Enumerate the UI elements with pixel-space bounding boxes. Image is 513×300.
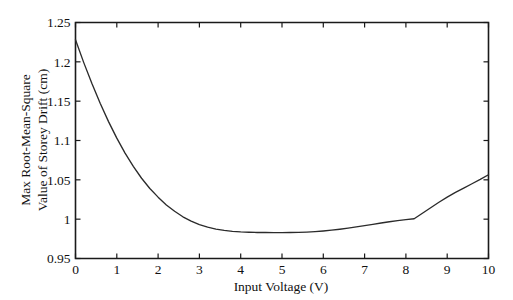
x-tick-label-2: 2 [155, 262, 162, 277]
x-tick-label-6: 6 [320, 262, 327, 277]
chart-figure-root: 012345678910 0.9511.051.11.151.21.25 Inp… [0, 0, 513, 300]
y-tick-label-4: 1.15 [47, 94, 71, 109]
x-tick-label-0: 0 [72, 262, 79, 277]
x-tick-label-10: 10 [482, 262, 496, 277]
x-axis-title: Input Voltage (V) [234, 279, 329, 294]
x-tick-label-5: 5 [279, 262, 286, 277]
y-tick-label-2: 1.05 [47, 173, 71, 188]
x-tick-label-3: 3 [196, 262, 203, 277]
x-tick-label-7: 7 [361, 262, 368, 277]
y-tick-label-1: 1 [64, 212, 71, 227]
x-tick-label-1: 1 [113, 262, 120, 277]
y-tick-label-6: 1.25 [47, 15, 71, 30]
y-axis-title-line1: Max Root-Mean-Square [18, 74, 33, 206]
plot-area-background [76, 23, 489, 259]
line-chart-svg: 012345678910 0.9511.051.11.151.21.25 Inp… [0, 0, 513, 300]
y-tick-label-5: 1.2 [54, 55, 71, 70]
x-tick-label-8: 8 [403, 262, 410, 277]
y-tick-label-0: 0.95 [47, 251, 71, 266]
y-tick-label-3: 1.1 [54, 133, 71, 148]
x-tick-label-9: 9 [444, 262, 451, 277]
x-tick-label-4: 4 [237, 262, 244, 277]
y-axis-title-line2: Value of Storey Drift (cm) [35, 69, 50, 211]
